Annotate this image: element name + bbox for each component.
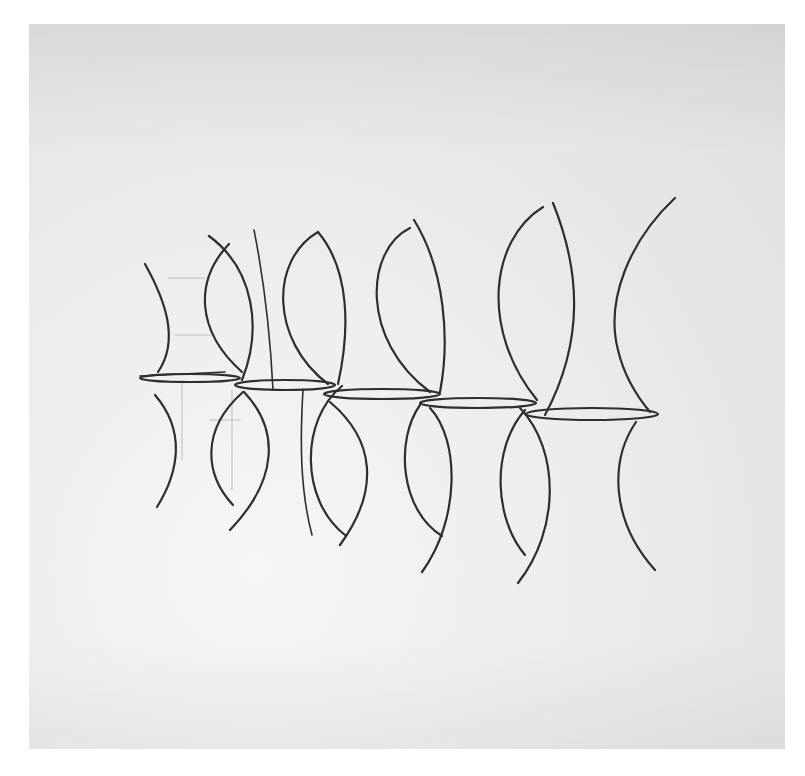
vase-strokes xyxy=(140,198,675,583)
pencil-drawing xyxy=(0,0,805,776)
construction-lines xyxy=(168,278,240,490)
